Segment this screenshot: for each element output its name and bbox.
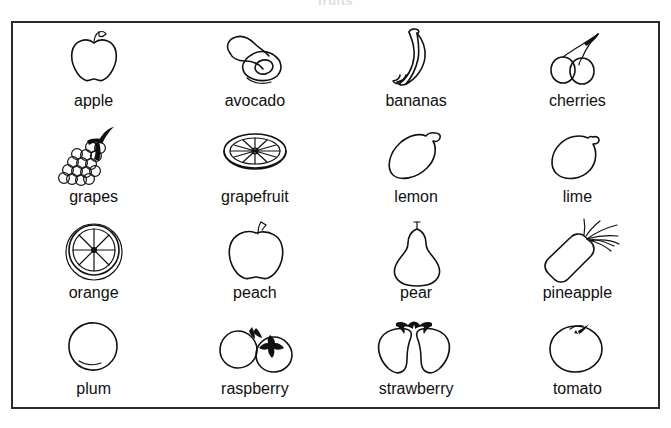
item-label: apple [74,93,113,109]
item-label: grapes [69,189,118,205]
grid-cell-pineapple[interactable]: pineapple [497,215,658,311]
grapefruit-icon [174,123,335,187]
item-label: grapefruit [221,189,289,205]
item-label: pineapple [543,285,612,301]
item-label: strawberry [379,381,454,397]
item-label: lime [563,189,592,205]
grid-cell-avocado[interactable]: avocado [174,23,335,119]
grid-cell-plum[interactable]: plum [13,311,174,407]
avocado-icon [174,27,335,91]
item-label: pear [400,285,432,301]
bananas-icon [336,27,497,91]
item-label: peach [233,285,277,301]
item-label: avocado [225,93,286,109]
grid-cell-peach[interactable]: peach [174,215,335,311]
raspberry-icon [174,315,335,379]
grid-cell-apple[interactable]: apple [13,23,174,119]
plum-icon [13,315,174,379]
page-title: fruits [0,0,671,8]
grid-cell-lemon[interactable]: lemon [336,119,497,215]
grid-cell-grapefruit[interactable]: grapefruit [174,119,335,215]
pear-icon [336,219,497,283]
item-label: lemon [394,189,438,205]
orange-icon [13,219,174,283]
grid-cell-orange[interactable]: orange [13,215,174,311]
item-label: orange [69,285,119,301]
peach-icon [174,219,335,283]
lime-icon [497,123,658,187]
cherries-icon [497,27,658,91]
grid-cell-lime[interactable]: lime [497,119,658,215]
grid-cell-cherries[interactable]: cherries [497,23,658,119]
apple-icon [13,27,174,91]
lemon-icon [336,123,497,187]
grid-cell-bananas[interactable]: bananas [336,23,497,119]
fruits-grid: apple avocado [13,23,658,407]
pineapple-icon [497,219,658,283]
strawberry-icon [336,315,497,379]
item-label: bananas [385,93,446,109]
grapes-icon [13,123,174,187]
item-label: cherries [549,93,606,109]
item-label: tomato [553,381,602,397]
fruits-chart-frame: apple avocado [11,21,660,409]
item-label: raspberry [221,381,289,397]
item-label: plum [76,381,111,397]
grid-cell-pear[interactable]: pear [336,215,497,311]
grid-cell-strawberry[interactable]: strawberry [336,311,497,407]
grid-cell-raspberry[interactable]: raspberry [174,311,335,407]
grid-cell-tomato[interactable]: tomato [497,311,658,407]
grid-cell-grapes[interactable]: grapes [13,119,174,215]
tomato-icon [497,315,658,379]
